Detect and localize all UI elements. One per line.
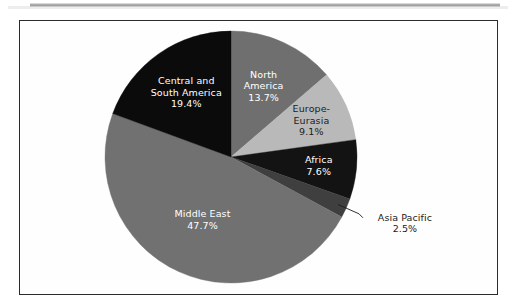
pie-chart-container: NorthAmerica13.7%Europe-Eurasia9.1%Afric… [20, 21, 499, 296]
pie-label-africa: Africa7.6% [305, 154, 333, 177]
page-canvas: NorthAmerica13.7%Europe-Eurasia9.1%Afric… [0, 0, 515, 308]
pie-chart-svg: NorthAmerica13.7%Europe-Eurasia9.1%Afric… [20, 21, 499, 296]
pie-label-asia-pacific: Asia Pacific2.5% [378, 211, 432, 234]
scan-artifact-band [30, 3, 500, 7]
chart-frame: NorthAmerica13.7%Europe-Eurasia9.1%Afric… [19, 20, 498, 295]
